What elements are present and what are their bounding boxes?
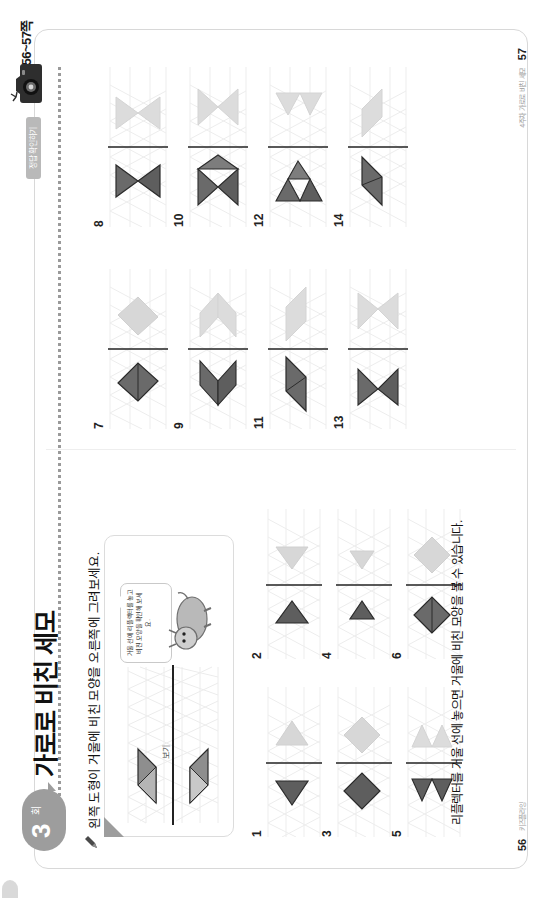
problem-figure <box>344 67 410 227</box>
rotated-page-wrapper: 본문 56~57쪽 3 회 가로로 비친 세모 정답 확인하기 왼쪽 도형이 거… <box>0 0 550 899</box>
problem-figure <box>184 67 250 227</box>
example-mirror-label: 보기 <box>162 745 171 759</box>
page-title: 가로로 비친 세모 <box>26 611 62 777</box>
page-number-right: 57 <box>516 48 528 60</box>
problem-figure <box>332 509 394 659</box>
pencil-icon <box>84 835 98 849</box>
page-note-left: 키즈플라잉 <box>517 802 527 831</box>
problem-figure <box>184 269 250 429</box>
instruction-text: 왼쪽 도형이 거울에 비친 모양을 오른쪽에 그려보세요. <box>84 552 103 829</box>
bottom-caption: 리플렉터를 거울 선에 놓으면 거울에 비친 모양을 볼 수 있습니다. <box>448 520 465 825</box>
chapter-number: 3 <box>28 824 54 838</box>
page-note-right: 4주차 가로로 비친 세모 <box>517 68 527 128</box>
problem-figure <box>332 687 394 837</box>
chapter-unit: 회 <box>32 806 43 815</box>
chapter-badge: 3 회 <box>22 789 66 851</box>
problem-figure <box>262 687 324 837</box>
problem-figure <box>344 269 410 429</box>
problem-figure <box>104 269 170 429</box>
page-number-left: 56 <box>516 839 528 851</box>
center-gutter <box>46 449 516 450</box>
mascot-character-icon <box>166 591 212 653</box>
problem-figure <box>262 509 324 659</box>
hint-text: 거울 선에 리플렉터를 놓고 비친 모양을 확인해 보세요. <box>126 589 153 657</box>
problem-figure <box>264 269 330 429</box>
hint-bubble: 거울 선에 리플렉터를 놓고 비친 모양을 확인해 보세요. <box>120 583 172 663</box>
camera-icon <box>10 63 46 109</box>
example-figure: 보기 <box>118 665 222 825</box>
page-thumb-corner <box>2 880 18 898</box>
workbook-spread: 본문 56~57쪽 3 회 가로로 비친 세모 정답 확인하기 왼쪽 도형이 거… <box>0 0 550 899</box>
answer-check-tag[interactable]: 정답 확인하기 <box>26 117 41 179</box>
problem-figure <box>104 67 170 227</box>
problem-figure <box>264 67 330 227</box>
